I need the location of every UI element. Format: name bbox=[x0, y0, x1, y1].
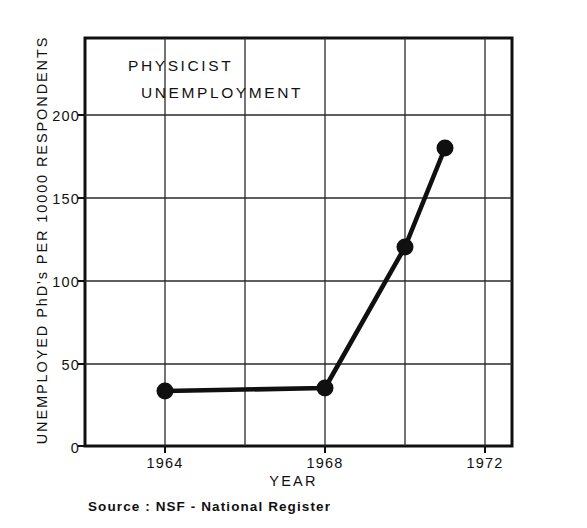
chart-title: PHYSICIST UNEMPLOYMENT bbox=[128, 52, 303, 106]
data-point-1971 bbox=[437, 140, 454, 157]
x-axis-label: YEAR bbox=[0, 473, 587, 489]
y-tick-labels: 0 50 100 150 200 bbox=[38, 0, 80, 528]
y-tick-label-0: 0 bbox=[40, 440, 80, 456]
y-tick-label-100: 100 bbox=[40, 274, 80, 290]
data-point-1964 bbox=[157, 383, 174, 400]
y-tick-label-200: 200 bbox=[40, 108, 80, 124]
y-tick-label-150: 150 bbox=[40, 191, 80, 207]
source-note: Source : NSF - National Register bbox=[88, 499, 331, 514]
data-point-1968 bbox=[317, 380, 334, 397]
chart-title-line-1: PHYSICIST bbox=[128, 57, 233, 74]
y-tick-label-50: 50 bbox=[40, 357, 80, 373]
x-tick-label-1968: 1968 bbox=[285, 455, 365, 471]
x-tick-label-1964: 1964 bbox=[125, 455, 205, 471]
x-tick-label-1972: 1972 bbox=[445, 455, 525, 471]
data-point-1970 bbox=[397, 239, 414, 256]
chart-title-line-2: UNEMPLOYMENT bbox=[141, 79, 303, 106]
chart-figure: UNEMPLOYED PhD's PER 10000 RESPONDENTS 0… bbox=[0, 0, 587, 528]
